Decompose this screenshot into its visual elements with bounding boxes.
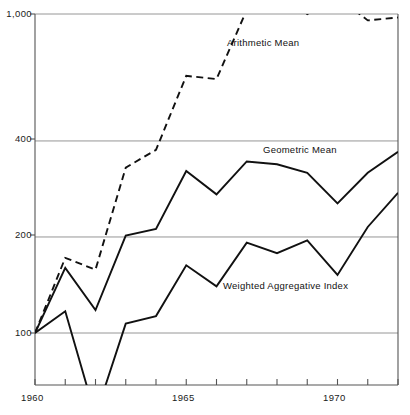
x-tick-label-1970: 1970 [323, 392, 346, 403]
series-label-arithmetic-mean: Arithmetic Mean [227, 37, 299, 48]
axis-lines-group [30, 14, 398, 385]
chart-container: 1,000 400 200 100 1960 1965 1970 Arithme… [0, 0, 410, 415]
data-series-group [35, 0, 398, 415]
series-label-geometric-mean: Geometric Mean [263, 144, 337, 155]
x-tick-label-1965: 1965 [172, 392, 195, 403]
line-chart-plot [0, 0, 410, 415]
x-tick-label-1960: 1960 [21, 392, 44, 403]
series-line-geometric-mean [35, 152, 398, 333]
x-axis-ticks-group [35, 379, 398, 385]
y-tick-label-400: 400 [0, 133, 32, 144]
series-label-weighted-aggregative-index: Weighted Aggregative Index [223, 280, 348, 291]
y-tick-label-1000: 1,000 [0, 8, 32, 19]
y-tick-label-100: 100 [0, 327, 32, 338]
y-tick-label-200: 200 [0, 229, 32, 240]
